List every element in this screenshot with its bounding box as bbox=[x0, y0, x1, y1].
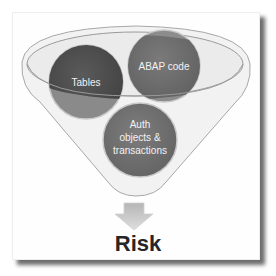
auth-label-line-2: objects & bbox=[119, 132, 160, 143]
risk-label: Risk bbox=[0, 231, 276, 257]
auth-label-line-1: Auth bbox=[130, 119, 151, 130]
abap-code-label: ABAP code bbox=[139, 61, 190, 72]
down-arrow-icon bbox=[115, 203, 153, 230]
auth-objects-circle: Auth objects & transactions bbox=[103, 103, 177, 177]
tables-label: Tables bbox=[72, 77, 101, 88]
tables-circle: Tables bbox=[49, 45, 123, 119]
abap-code-circle: ABAP code bbox=[128, 30, 200, 102]
auth-label-line-3: transactions bbox=[113, 145, 167, 156]
